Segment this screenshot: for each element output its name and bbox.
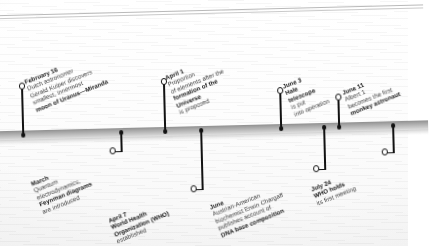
event-ring-icon	[335, 94, 342, 101]
top-rule-upper	[0, 4, 423, 16]
event-label-feb-16-miranda: February 16 Dutch astronomer Gerald Kuip…	[23, 23, 176, 113]
connector-stem	[338, 97, 340, 127]
connector-stem	[280, 91, 282, 129]
connector-stem	[163, 81, 166, 131]
connector-stem	[21, 86, 24, 135]
timeline-canvas: February 16 Dutch astronomer Gerald Kuip…	[0, 0, 411, 246]
